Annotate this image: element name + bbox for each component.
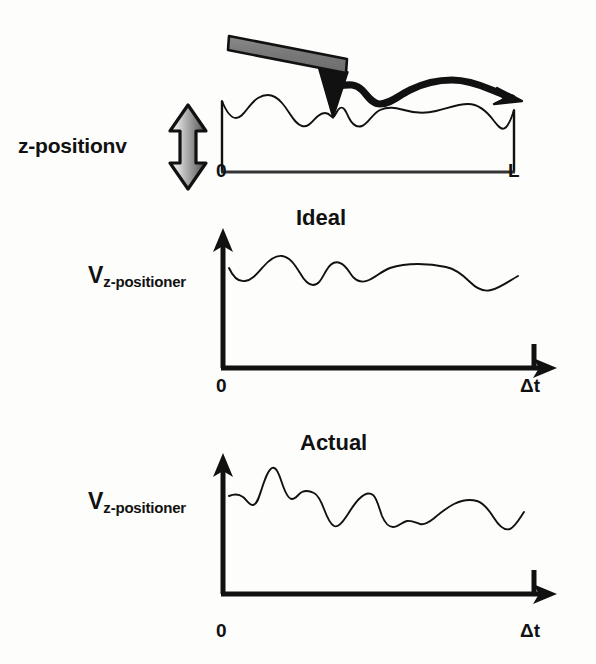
actual-x-zero-label: 0 xyxy=(216,620,227,642)
scan-direction-arrow xyxy=(338,80,522,104)
ideal-trace xyxy=(229,256,518,291)
z-motion-double-arrow xyxy=(170,105,206,189)
top-axis-zero-label: 0 xyxy=(216,160,227,182)
sample-baseline-group xyxy=(221,101,515,172)
actual-trace xyxy=(229,468,524,530)
ideal-y-axis-label-sub: z-positioner xyxy=(103,273,186,290)
afm-scanning-figure: z-positionv 0 L Ideal Vz-positioner 0 Δt… xyxy=(0,0,596,664)
actual-y-axis-label: Vz-positioner xyxy=(88,488,186,516)
top-axis-length-label: L xyxy=(508,160,520,182)
ideal-chart-title: Ideal xyxy=(296,205,346,231)
ideal-y-axis-label-main: V xyxy=(88,262,103,288)
actual-x-end-label: Δt xyxy=(520,620,540,642)
z-position-label: z-positionv xyxy=(18,134,127,158)
actual-chart-title: Actual xyxy=(300,430,367,456)
figure-canvas xyxy=(0,0,596,664)
actual-chart-group xyxy=(213,453,557,604)
ideal-x-end-label: Δt xyxy=(520,375,540,397)
ideal-chart-group xyxy=(213,228,557,378)
ideal-x-zero-label: 0 xyxy=(216,375,227,397)
cantilever xyxy=(228,36,347,73)
actual-y-axis-label-sub: z-positioner xyxy=(103,499,186,516)
ideal-y-axis-label: Vz-positioner xyxy=(88,262,186,290)
actual-y-axis-label-main: V xyxy=(88,488,103,514)
